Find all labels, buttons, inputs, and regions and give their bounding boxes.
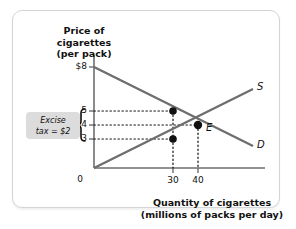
excise-tax-line2: tax = $2 [36,126,71,137]
y-axis-title-line1: Price of [41,25,127,37]
x-tick-label-30: 30 [161,175,185,185]
supply-curve-label: S [257,81,263,92]
excise-tax-callout: Excise tax = $2 [26,112,80,139]
x-tick-label-40: 40 [186,175,210,185]
consumer-price-point [169,107,177,115]
excise-tax-line1: Excise [40,115,66,126]
y-axis-title-line2: cigarettes [41,37,127,49]
y-axis-title: Price of cigarettes (per pack) [41,25,127,60]
x-axis-title: Quantity of cigarettes (millions of pack… [121,197,296,220]
equilibrium-label: E [206,122,212,133]
y-axis-title-line3: (per pack) [41,48,127,60]
origin-label: 0 [73,174,87,184]
demand-curve-label: D [257,139,265,150]
producer-price-point [169,135,177,143]
demand-curve [94,67,253,146]
equilibrium-point [194,121,202,129]
x-axis-title-line1: Quantity of cigarettes [121,197,296,209]
x-axis-title-line2: (millions of packs per day) [121,209,296,221]
y-tick-label-8: $8 [61,61,87,71]
figure-frame: Price of cigarettes (per pack) Quantity … [12,10,280,208]
